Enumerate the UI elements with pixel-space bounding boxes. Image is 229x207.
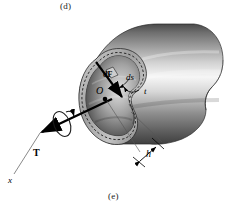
figure-container: (d) (e) dF ds t O T x h (0, 0, 229, 207)
origin-point (103, 97, 108, 102)
rotation-ellipse (50, 109, 75, 139)
label-origin: O (96, 85, 103, 96)
tube-torsion-illustration (0, 0, 229, 207)
label-axis-x: x (8, 175, 12, 185)
label-h: h (146, 148, 151, 159)
caption-bottom: (e) (108, 191, 119, 201)
label-ds: ds (126, 72, 134, 82)
caption-top: (d) (60, 1, 71, 11)
rotation-arrowhead (66, 111, 74, 116)
label-dF: dF (103, 70, 112, 79)
label-thickness: t (144, 86, 147, 96)
label-torque: T (33, 147, 40, 158)
